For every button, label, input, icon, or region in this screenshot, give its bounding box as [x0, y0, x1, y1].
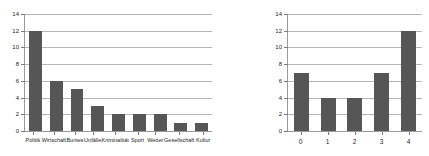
- bar: [321, 98, 336, 131]
- bar-series-left: [25, 14, 212, 131]
- x-axis-label-slot: Kriminalität: [102, 132, 129, 144]
- x-axis-label: 2: [341, 139, 368, 146]
- bar: [401, 31, 416, 131]
- charts-container: 02468101214 PolitikWirtschaftBuntesUnfäl…: [0, 0, 429, 156]
- x-axis-label: Sport: [129, 138, 147, 144]
- bar-slot: [395, 14, 422, 131]
- x-axis-label: 0: [287, 139, 314, 146]
- y-axis-label: 10: [12, 44, 19, 50]
- bar: [154, 114, 167, 131]
- x-axis-label: Gesellschaft: [164, 138, 194, 144]
- bar-slot: [87, 14, 108, 131]
- bar: [71, 89, 84, 131]
- bar-slot: [129, 14, 150, 131]
- y-axis-label: 10: [275, 44, 282, 50]
- bar: [112, 114, 125, 131]
- y-axis-label: 6: [279, 78, 282, 84]
- bar-chart-numeric: 02468101214 01234: [215, 0, 429, 156]
- x-axis-tick: [115, 132, 116, 135]
- x-axis-tick: [155, 132, 156, 135]
- y-axis-label: 2: [279, 111, 282, 117]
- x-axis-label: 1: [314, 139, 341, 146]
- x-axis-label-slot: Kultur: [194, 132, 212, 144]
- bar: [374, 73, 389, 132]
- bar-slot: [191, 14, 212, 131]
- bar: [91, 106, 104, 131]
- bar-slot: [288, 14, 315, 131]
- x-axis-label-slot: Politik: [24, 132, 42, 144]
- bar-slot: [67, 14, 88, 131]
- bar: [133, 114, 146, 131]
- x-axis-tick: [409, 132, 410, 135]
- x-axis-tick: [301, 132, 302, 135]
- x-axis-tick: [33, 132, 34, 135]
- bar-series-right: [288, 14, 422, 131]
- bar-slot: [368, 14, 395, 131]
- x-axis-tick: [203, 132, 204, 135]
- y-axis-label: 4: [279, 95, 282, 101]
- x-axis-tick: [382, 132, 383, 135]
- x-axis-label-slot: 3: [368, 132, 395, 146]
- plot-area-left: 02468101214: [24, 14, 212, 132]
- bar: [294, 73, 309, 132]
- y-axis-label: 12: [275, 28, 282, 34]
- y-axis-label: 4: [16, 95, 19, 101]
- x-axis-label: Politik: [24, 138, 42, 144]
- x-axis-label-slot: Sport: [129, 132, 147, 144]
- x-axis-label-slot: Gesellschaft: [164, 132, 194, 144]
- x-axis-tick: [138, 132, 139, 135]
- bar-slot: [342, 14, 369, 131]
- bar: [29, 31, 42, 131]
- y-axis-label: 0: [16, 128, 19, 134]
- y-axis-label: 2: [16, 111, 19, 117]
- plot-area-right: 02468101214: [287, 14, 422, 132]
- x-axis-labels-right: 01234: [287, 132, 422, 146]
- x-axis-tick: [93, 132, 94, 135]
- y-axis-label: 0: [279, 128, 282, 134]
- bar: [50, 81, 63, 131]
- bar-slot: [170, 14, 191, 131]
- x-axis-label-slot: Wirtschaft: [42, 132, 66, 144]
- bar-slot: [108, 14, 129, 131]
- x-axis-tick: [179, 132, 180, 135]
- x-axis-tick: [54, 132, 55, 135]
- x-axis-tick: [328, 132, 329, 135]
- x-axis-label-slot: Unfälle: [84, 132, 102, 144]
- x-axis-label: Unfälle: [84, 138, 102, 144]
- bar-slot: [25, 14, 46, 131]
- x-axis-label-slot: 4: [395, 132, 422, 146]
- x-axis-label: Kriminalität: [102, 138, 129, 144]
- x-axis-label-slot: Buntes: [66, 132, 84, 144]
- bar: [174, 123, 187, 131]
- y-axis-label: 14: [12, 11, 19, 17]
- x-axis-label-slot: 1: [314, 132, 341, 146]
- x-axis-label-slot: Wetter: [146, 132, 164, 144]
- x-axis-tick: [355, 132, 356, 135]
- x-axis-label: Wirtschaft: [42, 138, 66, 144]
- x-axis-label: 3: [368, 139, 395, 146]
- x-axis-label: Buntes: [66, 138, 84, 144]
- x-axis-label-slot: 0: [287, 132, 314, 146]
- x-axis-tick: [75, 132, 76, 135]
- x-axis-label: 4: [395, 139, 422, 146]
- bar-slot: [150, 14, 171, 131]
- bar: [347, 98, 362, 131]
- y-axis-label: 14: [275, 11, 282, 17]
- plot-wrap-right: 02468101214 01234: [287, 14, 422, 132]
- x-axis-label-slot: 2: [341, 132, 368, 146]
- y-axis-label: 6: [16, 78, 19, 84]
- bar: [195, 123, 208, 131]
- y-axis-label: 8: [279, 61, 282, 67]
- plot-wrap-left: 02468101214 PolitikWirtschaftBuntesUnfäl…: [24, 14, 212, 132]
- x-axis-label: Kultur: [194, 138, 212, 144]
- y-axis-label: 12: [12, 28, 19, 34]
- x-axis-label: Wetter: [146, 138, 164, 144]
- bar-slot: [46, 14, 67, 131]
- bar-slot: [315, 14, 342, 131]
- x-axis-labels-left: PolitikWirtschaftBuntesUnfälleKriminalit…: [24, 132, 212, 144]
- bar-chart-categories: 02468101214 PolitikWirtschaftBuntesUnfäl…: [0, 0, 215, 156]
- y-axis-label: 8: [16, 61, 19, 67]
